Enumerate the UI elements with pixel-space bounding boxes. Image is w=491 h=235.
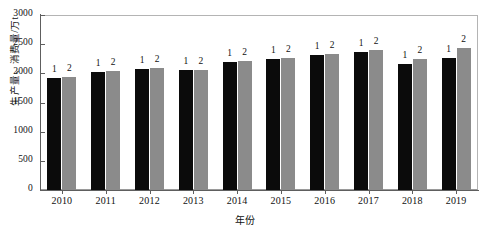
bar-groups: 12121212121212121212 xyxy=(40,15,478,190)
y-tick-mark xyxy=(40,190,45,191)
y-tick-label: 1500 xyxy=(13,96,33,106)
bar-series-1: 1 xyxy=(223,62,237,190)
y-tick-label: 0 xyxy=(28,183,33,193)
bar-group: 12 xyxy=(398,15,427,190)
bar-label: 2 xyxy=(242,47,247,57)
bar-series-2: 2 xyxy=(194,70,208,190)
bar-series-2: 2 xyxy=(106,71,120,190)
y-tick-label: 2000 xyxy=(13,66,33,76)
bar-label: 2 xyxy=(374,36,379,46)
bar-label: 1 xyxy=(96,58,101,68)
x-tick-mark xyxy=(106,190,107,194)
y-tick-label: 2500 xyxy=(13,37,33,47)
x-tick-mark xyxy=(369,190,370,194)
bar-group: 12 xyxy=(442,15,471,190)
bar-label: 1 xyxy=(227,48,232,58)
bar-group: 12 xyxy=(179,15,208,190)
bar-series-2: 2 xyxy=(413,59,427,190)
bar-series-2: 2 xyxy=(325,54,339,191)
bar-label: 2 xyxy=(417,45,422,55)
bar-label: 2 xyxy=(198,56,203,66)
bar-chart: 生产量、消费量/万t 050010001500200025003000 1212… xyxy=(0,0,491,235)
bar-label: 2 xyxy=(67,63,72,73)
bar-label: 2 xyxy=(155,54,160,64)
bar-label: 2 xyxy=(111,57,116,67)
bar-series-1: 1 xyxy=(442,58,456,190)
bar-label: 1 xyxy=(183,56,188,66)
bar-series-2: 2 xyxy=(62,77,76,190)
bar-series-2: 2 xyxy=(281,58,295,190)
bar-group: 12 xyxy=(354,15,383,190)
bar-group: 12 xyxy=(135,15,164,190)
bar-label: 2 xyxy=(461,34,466,44)
bar-label: 2 xyxy=(330,40,335,50)
x-tick-mark xyxy=(281,190,282,194)
bar-series-2: 2 xyxy=(457,48,471,190)
bar-series-2: 2 xyxy=(369,50,383,190)
bar-series-1: 1 xyxy=(91,72,105,190)
bar-group: 12 xyxy=(310,15,339,190)
bar-label: 1 xyxy=(446,44,451,54)
bar-group: 12 xyxy=(91,15,120,190)
bar-series-1: 1 xyxy=(179,70,193,190)
y-tick-label: 500 xyxy=(18,154,33,164)
x-tick-mark xyxy=(62,190,63,194)
bar-group: 12 xyxy=(47,15,76,190)
x-tick-mark xyxy=(150,190,151,194)
x-tick-mark xyxy=(237,190,238,194)
bar-label: 1 xyxy=(271,45,276,55)
y-tick-label: 1000 xyxy=(13,125,33,135)
y-tick-label: 3000 xyxy=(13,8,33,18)
bar-series-1: 1 xyxy=(47,78,61,190)
bar-group: 12 xyxy=(223,15,252,190)
bar-series-2: 2 xyxy=(238,61,252,190)
bar-label: 1 xyxy=(52,64,57,74)
bar-series-1: 1 xyxy=(398,64,412,190)
bar-series-1: 1 xyxy=(266,59,280,190)
bar-series-1: 1 xyxy=(310,55,324,190)
x-tick-mark xyxy=(456,190,457,194)
x-tick-mark xyxy=(193,190,194,194)
bar-label: 1 xyxy=(402,50,407,60)
x-tick-label: 2019 xyxy=(426,195,486,206)
x-tick-mark xyxy=(412,190,413,194)
x-axis-title: 年份 xyxy=(0,212,491,227)
bar-label: 1 xyxy=(359,38,364,48)
bar-group: 12 xyxy=(266,15,295,190)
bar-label: 1 xyxy=(315,41,320,51)
bar-series-2: 2 xyxy=(150,68,164,190)
bar-series-1: 1 xyxy=(354,52,368,190)
bar-series-1: 1 xyxy=(135,69,149,190)
bar-label: 1 xyxy=(140,55,145,65)
x-tick-mark xyxy=(325,190,326,194)
bar-label: 2 xyxy=(286,44,291,54)
